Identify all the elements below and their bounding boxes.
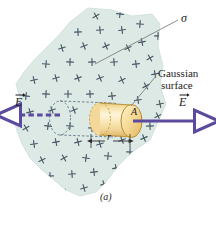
plus-sign-icon [164,58,173,67]
label-gaussian-line1: Gaussian [158,67,198,79]
label-radius: r [107,132,111,143]
label-surface-charge-density: σ [181,12,187,25]
charged-sheet [14,8,166,196]
label-field-left-text: E [15,95,22,109]
figure-container: σ Gaussian surface E E A r (a) [0,0,216,226]
label-gaussian-line2: surface [161,80,198,92]
vector-arrow-icon [179,92,190,97]
label-field-left: E [15,96,22,109]
vector-arrow-icon [15,92,26,97]
label-field-right: E [179,96,186,109]
label-area: A [131,107,137,118]
label-field-right-text: E [179,95,186,109]
label-gaussian-surface: Gaussian surface [158,68,198,91]
plus-sign-icon [159,44,166,51]
figure-caption: (a) [100,192,112,203]
